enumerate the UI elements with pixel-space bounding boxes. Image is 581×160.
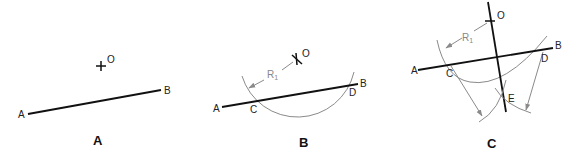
panel-a: O A B A <box>18 54 171 148</box>
label-d: D <box>349 87 356 98</box>
panel-c: O R1 A B C D E C <box>411 2 562 151</box>
radius-line-upper <box>474 23 487 31</box>
line-ab <box>418 48 553 70</box>
label-r1: R1 <box>267 69 278 81</box>
panel-b: O R1 A B C D B <box>213 48 367 150</box>
radius-arrow <box>446 38 462 48</box>
panel-caption-c: C <box>487 136 497 151</box>
geometric-construction-figure: O A B A O R1 A B C D B O <box>0 0 581 160</box>
label-r1: R1 <box>462 32 473 44</box>
label-a: A <box>411 65 418 76</box>
line-ab <box>222 84 358 107</box>
radius-arrow <box>249 80 264 88</box>
panel-caption-a: A <box>93 133 103 148</box>
label-o: O <box>497 10 505 21</box>
point-o-cross-icon <box>292 53 302 65</box>
point-o-cross-icon <box>96 61 106 71</box>
label-c: C <box>446 68 453 79</box>
radius-line-upper <box>282 62 293 70</box>
label-o: O <box>107 54 115 65</box>
label-a: A <box>18 109 25 120</box>
label-e: E <box>508 93 515 104</box>
label-b: B <box>164 85 171 96</box>
label-a: A <box>213 103 220 114</box>
label-b: B <box>555 40 562 51</box>
line-ab <box>28 90 161 114</box>
panel-caption-b: B <box>299 135 308 150</box>
label-d: D <box>541 53 548 64</box>
label-b: B <box>360 78 367 89</box>
arrow-from-c <box>451 66 482 116</box>
label-o: O <box>302 48 310 59</box>
label-c: C <box>250 104 257 115</box>
